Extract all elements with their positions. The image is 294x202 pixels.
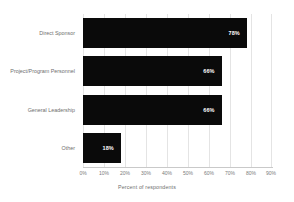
x-axis-line xyxy=(83,167,273,168)
bar-row: 66% xyxy=(83,52,272,90)
x-axis-title: Percent of respondents xyxy=(0,184,294,190)
x-tick-label: 50% xyxy=(183,170,193,176)
bar: 66% xyxy=(83,56,222,86)
category-label: General Leadership xyxy=(28,91,75,129)
x-tick-label: 20% xyxy=(120,170,130,176)
category-label: Project/Program Personnel xyxy=(10,52,75,90)
x-tick-label: 10% xyxy=(99,170,109,176)
x-tick-label: 70% xyxy=(225,170,235,176)
x-tick-label: 40% xyxy=(162,170,172,176)
plot-area: 78% 66% 66% 18% xyxy=(83,14,272,167)
bar: 66% xyxy=(83,95,222,125)
bar: 78% xyxy=(83,18,247,48)
x-tick-label: 0% xyxy=(79,170,86,176)
bar-chart: Direct Sponsor Project/Program Personnel… xyxy=(0,0,294,202)
x-tick-label: 30% xyxy=(141,170,151,176)
x-axis-tick-labels: 0% 10% 20% 30% 40% 50% 60% 70% 80% 90% xyxy=(83,170,272,180)
x-tick-label: 60% xyxy=(204,170,214,176)
category-label: Other xyxy=(62,129,75,167)
bar: 18% xyxy=(83,133,121,163)
x-tick-label: 80% xyxy=(246,170,256,176)
bar-value-label: 78% xyxy=(228,30,239,36)
bar-row: 78% xyxy=(83,14,272,52)
x-tick-label: 90% xyxy=(266,170,276,176)
bar-row: 18% xyxy=(83,129,272,167)
bar-value-label: 66% xyxy=(203,107,214,113)
bar-value-label: 66% xyxy=(203,68,214,74)
bar-row: 66% xyxy=(83,91,272,129)
category-axis-labels: Direct Sponsor Project/Program Personnel… xyxy=(0,14,79,167)
bar-value-label: 18% xyxy=(102,145,113,151)
category-label: Direct Sponsor xyxy=(39,14,75,52)
